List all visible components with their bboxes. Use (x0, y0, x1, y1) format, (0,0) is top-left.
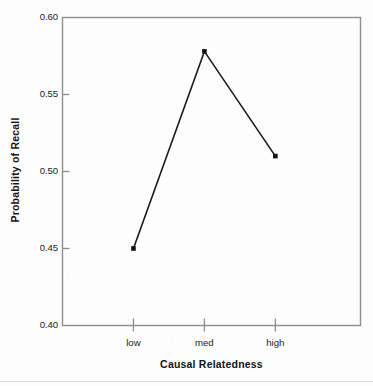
plot-frame (63, 18, 361, 326)
data-line (133, 51, 275, 248)
y-tick-label: 0.60 (16, 11, 58, 22)
y-tick-label: 0.50 (16, 165, 58, 176)
x-tick-label: med (179, 337, 229, 348)
data-point-markers (131, 49, 278, 251)
data-point-marker (131, 246, 136, 251)
y-tick-label: 0.40 (16, 319, 58, 330)
y-tick-label: 0.45 (16, 242, 58, 253)
y-tick-marks (63, 95, 70, 249)
y-tick-label: 0.55 (16, 88, 58, 99)
figure-container: Probability of Recall 0.600.550.500.450.… (0, 0, 373, 386)
data-point-marker (273, 154, 278, 159)
x-tick-label: low (108, 337, 158, 348)
footer-divider (0, 381, 373, 382)
x-axis-title: Causal Relatedness (62, 358, 361, 370)
data-point-marker (202, 49, 207, 54)
x-tick-label: high (250, 337, 300, 348)
